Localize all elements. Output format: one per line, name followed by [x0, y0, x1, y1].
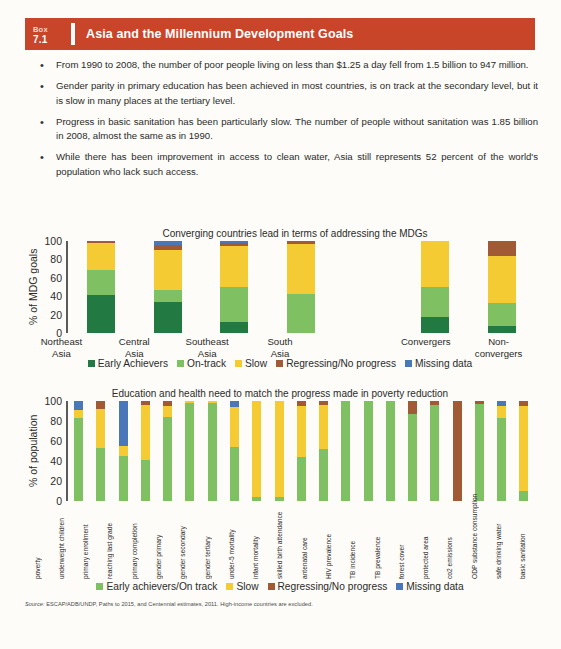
bar-slot [90, 401, 112, 501]
box-number-label: Box 7.1 [25, 25, 71, 44]
bullet-item: •From 1990 to 2008, the number of poor p… [40, 58, 538, 73]
bar-slot [179, 401, 201, 501]
stacked-bar [141, 401, 150, 501]
x-tick-label-text: under-5 mortality [228, 503, 235, 579]
bar-slot [201, 401, 223, 501]
bar-segment [87, 270, 115, 296]
bar-segment [163, 406, 172, 417]
x-tick-label: safe drinking water [486, 503, 510, 579]
x-tick-label: infant mortality [244, 503, 268, 579]
legend-item: Missing data [405, 358, 472, 369]
bar-segment [341, 401, 350, 501]
legend-item: Missing data [396, 581, 463, 592]
box-number: 7.1 [33, 35, 71, 44]
bar-segment [364, 401, 373, 501]
x-tick-label: poverty [25, 503, 49, 579]
y-tick-label: 60 [50, 435, 62, 447]
chart1-legend: Early AchieversOn-trackSlowRegressing/No… [25, 358, 535, 369]
y-tick-label: 60 [50, 272, 62, 284]
x-tick-label-line: Central [98, 336, 171, 348]
bar-segment [297, 457, 306, 501]
bar-segment [96, 448, 105, 501]
x-tick-label [316, 336, 389, 359]
bar-slot [246, 401, 268, 501]
stacked-bar [475, 401, 484, 501]
bar-segment [488, 303, 516, 326]
x-tick-label-text: infant mortality [252, 503, 259, 579]
chart2-legend: Early achievers/On trackSlowRegressing/N… [25, 581, 535, 592]
chart1-x-labels: NortheastAsiaCentralAsiaSoutheastAsiaSou… [25, 336, 535, 359]
bullet-marker-icon: • [40, 79, 56, 108]
legend-item: Early Achievers [88, 358, 168, 369]
x-tick-label-text: antenatal care [301, 503, 308, 579]
bar-segment [453, 401, 462, 501]
x-tick-label-text: co2 emissions [446, 503, 453, 579]
bar-slot [134, 401, 156, 501]
bullet-item: •Progress in basic sanitation has been p… [40, 115, 538, 144]
bar-segment [163, 417, 172, 501]
stacked-bar [185, 401, 194, 501]
bar-segment [185, 403, 194, 501]
box-page: Box 7.1 Asia and the Millennium Developm… [0, 0, 561, 649]
chart1-y-ticks: 020406080100 [40, 241, 66, 333]
bar-segment [119, 401, 128, 446]
bar-segment [319, 405, 328, 449]
x-tick-label: HIV prevalence [316, 503, 340, 579]
bar-segment [497, 406, 506, 418]
x-tick-label: co2 emissions [438, 503, 462, 579]
bar-segment [497, 418, 506, 501]
bar-slot [379, 401, 401, 501]
legend-label: Missing data [415, 358, 472, 369]
x-tick-label-text: basic sanitation [519, 503, 526, 579]
bar-slot [335, 241, 402, 333]
bullet-marker-icon: • [40, 150, 56, 179]
bar-slot [513, 401, 535, 501]
legend-swatch-icon [88, 360, 95, 367]
y-tick-label: 0 [56, 327, 62, 339]
bullet-list: •From 1990 to 2008, the number of poor p… [40, 58, 538, 186]
x-tick-label: Non-convergers [462, 336, 535, 359]
x-tick-label-text: forest cover [398, 503, 405, 579]
bar-segment [287, 294, 315, 333]
stacked-bar [208, 401, 217, 501]
x-tick-label-text: protected area [422, 503, 429, 579]
y-tick-label: 40 [50, 290, 62, 302]
bar-segment [141, 405, 150, 460]
chart1-plot-area [68, 241, 536, 333]
x-tick-label-text: skilled birth attendance [276, 503, 283, 579]
chart2-plot-area [68, 401, 536, 501]
x-tick-label: SouthAsia [244, 336, 317, 359]
stacked-bar [319, 401, 328, 501]
bar-segment [96, 401, 105, 409]
legend-swatch-icon [235, 360, 242, 367]
box-header-banner: Box 7.1 Asia and the Millennium Developm… [25, 18, 535, 50]
x-tick-label-line: South [244, 336, 317, 348]
x-tick-label-text: gender tertiary [204, 503, 211, 579]
x-tick-label: Convergers [389, 336, 462, 359]
x-tick-label: gender tertiary [195, 503, 219, 579]
x-tick-label: under-5 mortality [219, 503, 243, 579]
legend-label: Regressing/No progress [278, 581, 388, 592]
chart2-title: Education and health need to match the p… [25, 388, 535, 399]
bar-segment [408, 414, 417, 501]
bar-segment [154, 302, 182, 333]
legend-label: Early Achievers [98, 358, 168, 369]
legend-label: Slow [245, 358, 267, 369]
banner-divider [71, 23, 75, 45]
bar-segment [408, 401, 417, 414]
bar-segment [287, 244, 315, 295]
stacked-bar [430, 401, 439, 501]
legend-swatch-icon [226, 583, 233, 590]
y-tick-label: 100 [44, 235, 62, 247]
bullet-text: From 1990 to 2008, the number of poor pe… [56, 58, 538, 73]
chart2-y-ticks: 020406080100 [40, 401, 66, 501]
bullet-text: Gender parity in primary education has b… [56, 79, 538, 108]
stacked-bar [230, 401, 239, 501]
bar-segment [154, 290, 182, 302]
bar-segment [87, 243, 115, 270]
x-tick-label-text: primary completion [131, 503, 138, 579]
x-tick-label: protected area [414, 503, 438, 579]
stacked-bar [119, 401, 128, 501]
x-tick-label-text: ODP substance consumption [471, 503, 478, 579]
x-tick-label-line: Southeast [171, 336, 244, 348]
